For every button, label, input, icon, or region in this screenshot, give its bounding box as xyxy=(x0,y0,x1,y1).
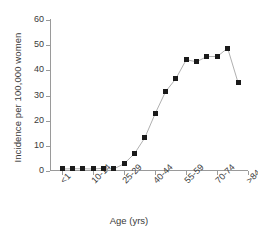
x-tick-label: <1 xyxy=(59,172,73,186)
data-point xyxy=(163,89,168,94)
y-tick-label: 20 xyxy=(20,116,44,125)
data-point xyxy=(225,46,230,51)
y-tick-label: 40 xyxy=(20,65,44,74)
data-point xyxy=(142,135,147,140)
plot-area: 0102030405060 <110-1425-2940-4455-5970-7… xyxy=(50,19,248,171)
data-point xyxy=(111,166,116,171)
data-point xyxy=(153,111,158,116)
y-tick-label: 60 xyxy=(20,15,44,24)
x-axis-title: Age (yrs) xyxy=(0,215,258,226)
data-point xyxy=(80,166,85,171)
data-point xyxy=(173,76,178,81)
y-tick xyxy=(46,171,50,172)
data-point xyxy=(236,80,241,85)
y-tick-label: 10 xyxy=(20,141,44,150)
data-point xyxy=(204,54,209,59)
y-tick-label: 0 xyxy=(20,166,44,175)
data-point xyxy=(184,57,189,62)
data-point xyxy=(122,161,127,166)
y-tick-label: 50 xyxy=(20,40,44,49)
data-point xyxy=(194,59,199,64)
data-point xyxy=(132,151,137,156)
y-tick-label: 30 xyxy=(20,91,44,100)
chart-figure: Incidence per 100,000 women Age (yrs) 01… xyxy=(0,0,258,238)
series-markers xyxy=(50,19,248,171)
data-point xyxy=(70,166,75,171)
data-point xyxy=(60,166,65,171)
data-point xyxy=(91,166,96,171)
data-point xyxy=(215,54,220,59)
data-point xyxy=(101,166,106,171)
